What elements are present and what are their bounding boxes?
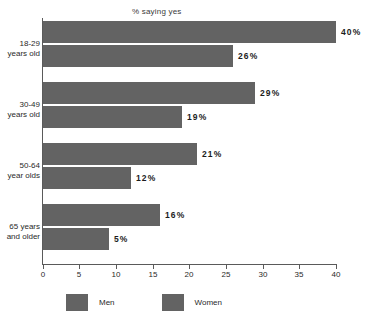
bar-women[interactable]: [43, 45, 233, 67]
x-tick-label-5: 5: [77, 270, 81, 279]
x-tick-label-35: 35: [295, 270, 304, 279]
legend-swatch-women: [162, 294, 184, 311]
bar-group-65-plus: 16% 5%: [43, 204, 336, 250]
bar-men[interactable]: [43, 82, 255, 104]
x-tick-40: [336, 264, 337, 269]
bar-group-30-49: 29% 19%: [43, 82, 336, 128]
x-tick-label-20: 20: [185, 270, 194, 279]
legend-label-men: Men: [99, 298, 115, 307]
category-label-line2: years old: [0, 110, 40, 120]
bar-women[interactable]: [43, 106, 182, 128]
x-tick-25: [226, 264, 227, 269]
x-tick-35: [299, 264, 300, 269]
category-label-65-plus: 65 years and older: [0, 222, 40, 242]
chart-legend: Men Women: [66, 294, 222, 311]
bar-row-women: 26%: [43, 45, 336, 67]
bar-value-men: 29%: [260, 88, 280, 98]
x-tick-0: [43, 264, 44, 269]
category-label-line2: year olds: [0, 171, 40, 181]
x-tick-10: [116, 264, 117, 269]
bar-men[interactable]: [43, 204, 160, 226]
legend-item-men[interactable]: Men: [66, 294, 115, 311]
bar-women[interactable]: [43, 228, 109, 250]
x-tick-5: [79, 264, 80, 269]
bar-value-women: 26%: [238, 51, 258, 61]
bar-row-men: 40%: [43, 21, 336, 43]
bar-men[interactable]: [43, 143, 197, 165]
bar-row-women: 5%: [43, 228, 336, 250]
category-label-18-29: 18-29 years old: [0, 39, 40, 59]
category-label-line1: 18-29: [0, 39, 40, 49]
bar-chart: % saying yes 18-29 years old 30-49 years…: [0, 0, 373, 326]
x-tick-20: [189, 264, 190, 269]
legend-label-women: Women: [195, 298, 222, 307]
x-tick-label-0: 0: [41, 270, 45, 279]
bar-men[interactable]: [43, 21, 336, 43]
bar-value-men: 16%: [165, 210, 185, 220]
bar-value-men: 21%: [202, 149, 222, 159]
bar-row-men: 21%: [43, 143, 336, 165]
category-label-line2: years old: [0, 49, 40, 59]
bar-row-women: 19%: [43, 106, 336, 128]
x-tick-label-40: 40: [332, 270, 341, 279]
category-label-30-49: 30-49 years old: [0, 100, 40, 120]
x-tick-label-15: 15: [149, 270, 158, 279]
category-label-line1: 65 years: [0, 222, 40, 232]
category-label-line2: and older: [0, 232, 40, 242]
bar-value-women: 5%: [114, 234, 129, 244]
bar-value-women: 19%: [187, 112, 207, 122]
legend-swatch-men: [66, 294, 88, 311]
bar-group-50-64: 21% 12%: [43, 143, 336, 189]
bar-women[interactable]: [43, 167, 131, 189]
legend-item-women[interactable]: Women: [162, 294, 222, 311]
bar-value-men: 40%: [341, 27, 361, 37]
bar-row-women: 12%: [43, 167, 336, 189]
x-tick-label-25: 25: [222, 270, 231, 279]
bar-row-men: 29%: [43, 82, 336, 104]
category-label-line1: 50-64: [0, 161, 40, 171]
x-tick-label-30: 30: [259, 270, 268, 279]
bar-group-18-29: 40% 26%: [43, 21, 336, 67]
x-tick-30: [263, 264, 264, 269]
category-label-50-64: 50-64 year olds: [0, 161, 40, 181]
bar-row-men: 16%: [43, 204, 336, 226]
chart-title: % saying yes: [132, 7, 182, 16]
x-tick-label-10: 10: [112, 270, 121, 279]
bar-value-women: 12%: [136, 173, 156, 183]
category-label-line1: 30-49: [0, 100, 40, 110]
x-tick-15: [153, 264, 154, 269]
